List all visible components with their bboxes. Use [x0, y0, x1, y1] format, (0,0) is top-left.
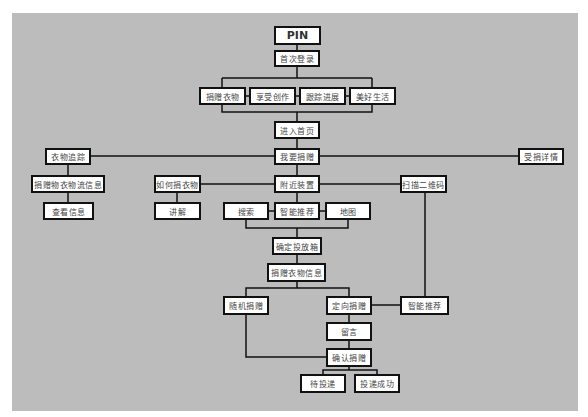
node-delivery-success: 投递成功 — [354, 374, 400, 393]
node-clothes-tracking: 衣物追踪 — [45, 148, 91, 165]
node-donate-clothes: 捐赠衣物 — [199, 87, 246, 105]
edge-search-confirm_box — [246, 220, 348, 228]
node-how-to-donate: 如何捐衣物 — [154, 175, 201, 193]
edge-random_donate-confirm_donate — [246, 315, 326, 357]
node-smart-recommend-2: 智能推荐 — [400, 296, 449, 315]
node-received-details: 受捐详情 — [518, 148, 564, 165]
node-i-want-donate: 我要捐赠 — [274, 148, 320, 165]
node-message: 留言 — [326, 322, 372, 341]
node-enter-home: 进入首页 — [274, 121, 320, 139]
node-search: 搜索 — [223, 202, 269, 220]
node-smart-recommend-1: 智能推荐 — [274, 202, 320, 220]
node-donation-info: 捐赠衣物信息 — [267, 263, 326, 282]
node-confirm-donate: 确认捐赠 — [326, 348, 372, 367]
node-map: 地图 — [325, 202, 371, 220]
node-directed-donate: 定向捐赠 — [326, 296, 372, 315]
node-view-info: 查看信息 — [43, 202, 94, 220]
node-enjoy-create: 享受创作 — [249, 87, 296, 105]
node-track-progress: 跟踪进展 — [299, 87, 346, 105]
edge-bracket_bottom-bracket — [222, 105, 372, 112]
edge-branch-random_donate — [246, 288, 349, 296]
node-scan-qr: 扫描二维码 — [400, 175, 447, 193]
node-nearby-devices: 附近装置 — [274, 175, 320, 193]
node-good-life: 美好生活 — [349, 87, 396, 105]
node-random-donate: 随机捐赠 — [223, 296, 269, 315]
node-pending-delivery: 待投递 — [300, 374, 346, 393]
node-confirm-box: 确定投放箱 — [272, 237, 322, 255]
node-logistics-info: 捐赠物衣物流信息 — [31, 175, 105, 193]
node-pin: PIN — [274, 26, 321, 45]
node-first-login: 首次登录 — [274, 50, 320, 67]
node-explain: 讲解 — [154, 202, 201, 220]
